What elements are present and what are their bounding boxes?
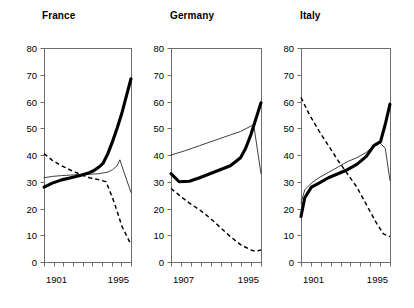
plot-area: 0102030405060708019011995 — [0, 0, 414, 308]
panel-italy: Italy0102030405060708019011995 — [0, 0, 414, 308]
y-tick-label: 60 — [283, 97, 294, 108]
chart-figure: France0102030405060708019011995Germany01… — [0, 0, 414, 308]
y-tick-label: 70 — [283, 70, 294, 81]
axis-frame — [302, 49, 391, 263]
series-line-thin-solid — [301, 142, 390, 204]
y-tick-label: 10 — [283, 230, 294, 241]
y-tick-label: 80 — [283, 43, 294, 54]
series-line-dashed — [301, 97, 390, 236]
y-tick-label: 0 — [289, 257, 294, 268]
x-tick-label: 1901 — [303, 274, 324, 285]
x-tick-label: 1995 — [367, 274, 388, 285]
y-tick-label: 20 — [283, 204, 294, 215]
y-tick-label: 30 — [283, 177, 294, 188]
y-tick-label: 50 — [283, 123, 294, 134]
series-line-thick-solid — [301, 104, 390, 216]
y-tick-label: 40 — [283, 150, 294, 161]
